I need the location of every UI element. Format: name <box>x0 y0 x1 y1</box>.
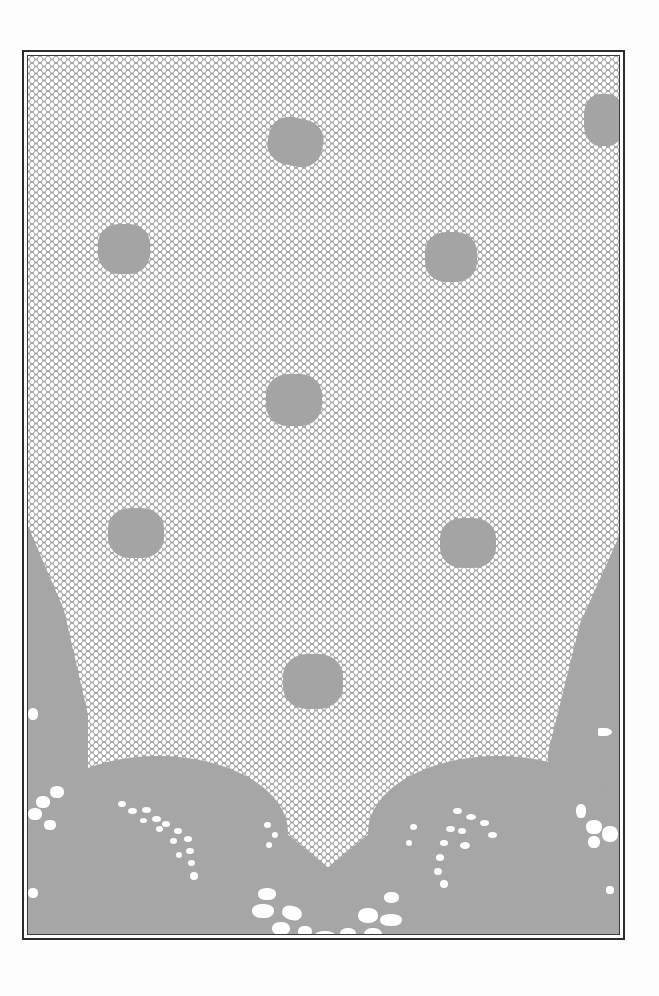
scallop-hole <box>186 848 194 854</box>
solid-motif <box>425 232 477 282</box>
scallop-hole <box>434 868 442 875</box>
lace-frame-border <box>22 50 625 940</box>
scallop-hole <box>458 828 466 834</box>
picot-blob <box>252 904 274 918</box>
picot-blob <box>258 888 276 900</box>
picot-blob <box>364 928 382 935</box>
picot-blob <box>340 928 356 935</box>
picot-blob <box>576 804 586 818</box>
picot-blob <box>602 826 618 842</box>
scallop-hole <box>188 860 195 866</box>
lace-panel <box>27 55 620 935</box>
picot-blob <box>314 931 336 935</box>
picot-blob <box>44 820 56 830</box>
solid-motif <box>108 508 164 558</box>
scallop-hole <box>264 822 271 828</box>
scallop-hole <box>266 842 272 848</box>
scallop-hole <box>453 808 462 814</box>
scallop-hole <box>410 824 417 830</box>
scallop-hole <box>190 872 198 880</box>
scallop-hole <box>460 842 470 849</box>
scallop-hole <box>436 854 444 861</box>
scallop-hole <box>152 816 161 822</box>
scallop-hole <box>142 807 151 813</box>
scallop-hole <box>440 840 448 846</box>
scallop-hole <box>156 826 163 832</box>
scallop-hole <box>488 832 497 838</box>
picot-blob <box>586 820 602 834</box>
solid-motif <box>440 518 496 568</box>
scallop-hole <box>162 821 170 827</box>
scallop-hole <box>128 808 137 814</box>
scallop-hole <box>440 880 448 888</box>
picot-blob <box>380 914 402 926</box>
picot-blob <box>358 908 378 923</box>
picot-blob <box>384 892 399 903</box>
picot-blob <box>36 796 50 808</box>
picot-blob <box>50 786 64 798</box>
picot-blob <box>298 926 312 935</box>
picot-blob <box>606 886 614 894</box>
picot-blob <box>28 808 42 820</box>
scallop-hole <box>170 838 177 844</box>
picot-blob <box>28 888 38 898</box>
solid-motif <box>266 374 322 426</box>
scallop-hole <box>272 832 278 838</box>
picot-blob <box>598 728 612 736</box>
solid-motif <box>283 654 343 709</box>
scallop-hole <box>406 840 412 846</box>
scallop-hole <box>176 852 182 858</box>
scallop-hole <box>140 818 147 823</box>
picot-blob <box>588 836 600 848</box>
solid-motif <box>98 224 150 274</box>
picot-blob <box>28 708 38 720</box>
scallop-hole <box>174 828 182 834</box>
scallop-hole <box>480 820 489 826</box>
solid-motif <box>584 94 620 146</box>
scallop-hole <box>118 801 126 807</box>
scallop-hole <box>466 814 476 820</box>
scallop-hole <box>446 826 455 832</box>
scallop-hole <box>184 836 192 842</box>
picot-blob <box>272 922 290 935</box>
